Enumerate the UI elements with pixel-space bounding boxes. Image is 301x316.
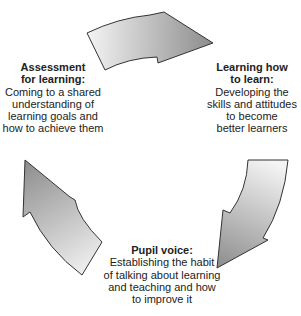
arrow-right-icon (217, 160, 288, 268)
desc-line: Establishing the habit (104, 256, 221, 268)
stage-description: Coming to a shared understanding of lear… (3, 86, 104, 135)
stage-title: Assessment for learning: (3, 61, 104, 86)
desc-line: to improve it (104, 293, 221, 305)
stage-pupil-voice: Pupil voice: Establishing the habit of t… (104, 244, 221, 305)
desc-line: to become (207, 110, 297, 122)
desc-line: better learners (207, 122, 297, 134)
title-line: Assessment (3, 61, 104, 73)
arrow-left-icon (23, 160, 102, 275)
desc-line: Developing the (207, 86, 297, 98)
arrow-top-icon (87, 12, 213, 70)
desc-line: and teaching and how (104, 281, 221, 293)
stage-description: Establishing the habit of talking about … (104, 256, 221, 305)
stage-title: Learning how to learn: (207, 61, 297, 86)
desc-line: Coming to a shared (3, 86, 104, 98)
stage-learning-how-to-learn: Learning how to learn: Developing the sk… (207, 61, 297, 135)
desc-line: learning goals and (3, 110, 104, 122)
stage-assessment-for-learning: Assessment for learning: Coming to a sha… (3, 61, 104, 135)
desc-line: of talking about learning (104, 269, 221, 281)
title-line: Learning how (207, 61, 297, 73)
title-line: Pupil voice: (104, 244, 221, 256)
stage-description: Developing the skills and attitudes to b… (207, 86, 297, 135)
title-line: to learn: (207, 73, 297, 85)
desc-line: how to achieve them (3, 122, 104, 134)
title-line: for learning: (3, 73, 104, 85)
desc-line: understanding of (3, 98, 104, 110)
desc-line: skills and attitudes (207, 98, 297, 110)
stage-title: Pupil voice: (104, 244, 221, 256)
